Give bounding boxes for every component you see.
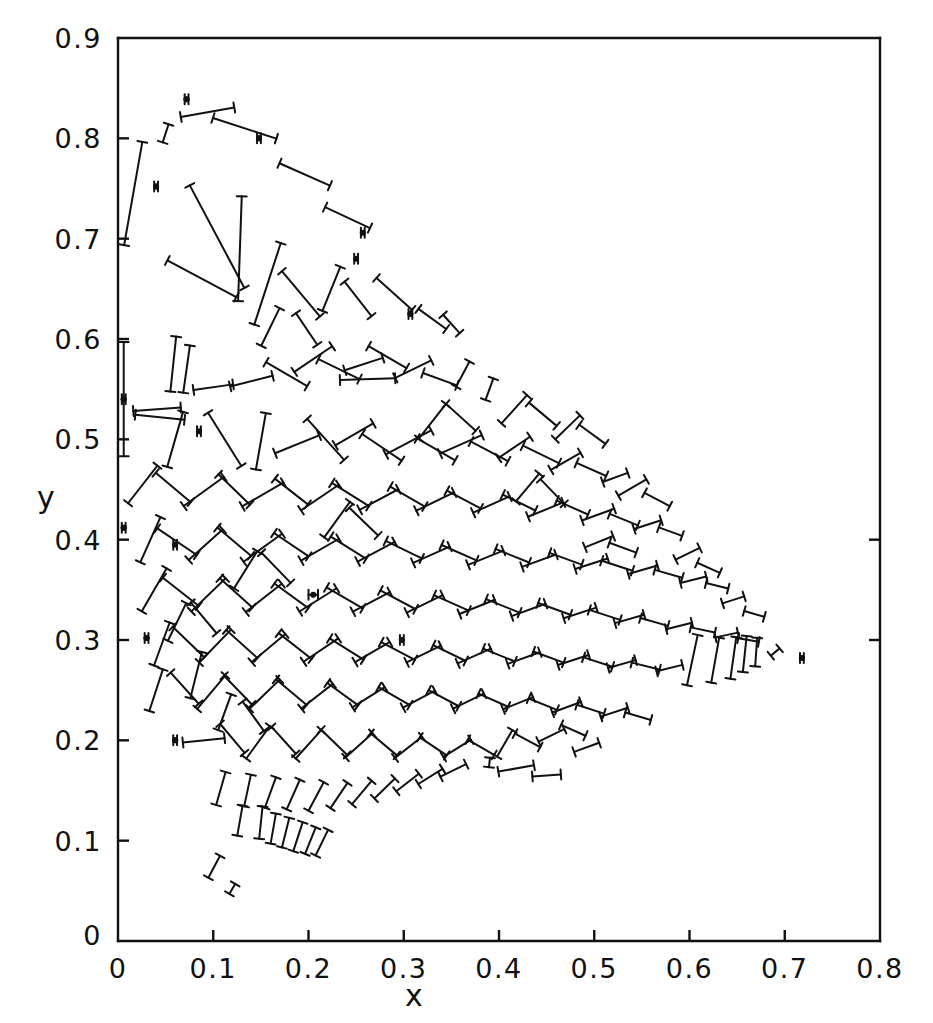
- discrimination-segment: [278, 268, 324, 320]
- segment-body: [229, 884, 235, 894]
- segment-cap-start: [292, 368, 298, 376]
- segment-body: [515, 734, 540, 747]
- segment-body: [279, 633, 312, 659]
- segment-body: [666, 623, 692, 629]
- segment-cap-start: [738, 672, 748, 673]
- segment-body: [191, 603, 217, 634]
- segment-body: [743, 636, 747, 672]
- segment-body: [220, 578, 253, 607]
- segment-body: [609, 543, 636, 553]
- segment-cap-start: [750, 666, 760, 667]
- discrimination-segment: [309, 590, 319, 600]
- discrimination-segment: [266, 813, 281, 845]
- segment-cap-start: [133, 406, 134, 416]
- segment-body: [259, 807, 262, 839]
- discrimination-segment: [469, 437, 511, 466]
- segment-body: [429, 690, 459, 706]
- segment-body: [293, 822, 302, 851]
- segment-body: [579, 425, 605, 444]
- discrimination-segment: [343, 353, 384, 375]
- segment-cap-start: [193, 385, 194, 395]
- discrimination-segment: [416, 305, 450, 333]
- discrimination-segment: [277, 159, 332, 191]
- chromaticity-diagram: 0.10.20.30.40.50.60.70.80.9000.10.20.30.…: [0, 0, 933, 1023]
- segment-cap-start: [576, 421, 582, 429]
- y-tick-label: 0.1: [55, 826, 102, 857]
- segment-body: [191, 578, 225, 611]
- segment-body: [418, 309, 446, 329]
- discrimination-segment: [333, 419, 376, 450]
- segment-body: [486, 378, 494, 399]
- discrimination-segment: [366, 342, 409, 373]
- segment-body: [538, 603, 570, 615]
- x-tick-label: 0.5: [571, 953, 618, 984]
- segment-body: [193, 384, 233, 390]
- segment-body: [170, 337, 176, 392]
- discrimination-segment: [440, 540, 479, 565]
- segment-cap-start: [119, 244, 129, 246]
- locus-dot: [256, 135, 262, 141]
- discrimination-segment: [367, 729, 400, 759]
- segment-body: [442, 545, 477, 560]
- segment-body: [381, 642, 415, 660]
- segment-body: [564, 608, 597, 619]
- segment-body: [483, 649, 515, 662]
- discrimination-segment: [352, 638, 392, 667]
- segment-body: [447, 491, 481, 509]
- segment-body: [362, 434, 401, 461]
- segment-body: [644, 493, 669, 506]
- segment-body: [167, 412, 183, 467]
- segment-body: [349, 508, 378, 536]
- segment-body: [135, 415, 184, 420]
- segment-cap-start: [298, 506, 304, 514]
- segment-cap-start: [135, 410, 136, 420]
- segment-cap-start: [655, 666, 657, 676]
- discrimination-segment: [289, 821, 308, 853]
- segment-body: [413, 547, 450, 563]
- segment-body: [149, 669, 163, 711]
- segment-body: [246, 584, 282, 612]
- segment-cap-end: [727, 584, 729, 594]
- discrimination-segment: [182, 733, 225, 747]
- segment-body: [471, 442, 508, 462]
- segment-cap-start: [497, 767, 499, 777]
- discrimination-segment: [277, 817, 294, 849]
- discrimination-segment: [225, 881, 239, 896]
- discrimination-segment: [153, 469, 194, 506]
- segment-cap-start: [484, 767, 494, 768]
- discrimination-segment: [548, 548, 584, 569]
- discrimination-segment: [421, 368, 458, 390]
- segment-body: [676, 548, 700, 560]
- segment-cap-end: [443, 325, 449, 333]
- discrimination-segment: [608, 538, 638, 557]
- segment-cap-end: [752, 637, 762, 638]
- segment-body: [304, 638, 339, 661]
- discrimination-segment: [373, 274, 415, 313]
- segment-body: [691, 627, 715, 632]
- segment-cap-start: [182, 738, 183, 748]
- segment-cap-start: [682, 684, 692, 686]
- discrimination-segment: [616, 475, 649, 500]
- segment-cap-start: [180, 112, 182, 122]
- segment-cap-end: [137, 141, 147, 143]
- discrimination-segment: [750, 637, 762, 666]
- discrimination-segment: [272, 475, 311, 509]
- segment-body: [282, 271, 320, 316]
- discrimination-segment: [251, 412, 271, 470]
- segment-body: [345, 358, 383, 370]
- segment-cap-end: [221, 771, 231, 774]
- discrimination-segment: [318, 726, 351, 758]
- discrimination-segment: [341, 279, 376, 320]
- discrimination-segment: [536, 725, 566, 747]
- segment-body: [184, 477, 224, 506]
- discrimination-segment: [393, 356, 433, 383]
- segment-body: [190, 185, 245, 288]
- segment-cap-start: [229, 382, 231, 392]
- segment-body: [217, 528, 251, 556]
- segment-cap-end: [284, 817, 294, 819]
- segment-body: [230, 376, 273, 387]
- segment-body: [771, 648, 780, 655]
- segment-body: [325, 207, 370, 228]
- segment-cap-end: [185, 345, 195, 346]
- segment-cap-start: [631, 658, 633, 668]
